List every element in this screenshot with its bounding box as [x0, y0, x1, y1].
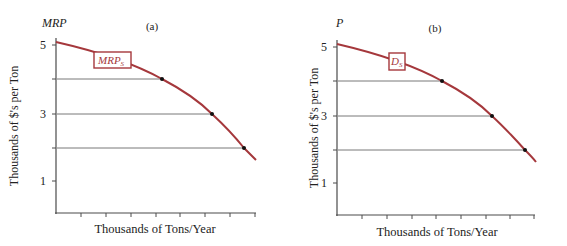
svg-text:MRPS: MRPS: [97, 54, 125, 68]
panel-a-point: [210, 112, 214, 116]
panel-a-ytick-label-3: 3: [40, 107, 46, 121]
panel-b-point: [523, 148, 527, 152]
panel-a-y-axis-title: MRP: [41, 16, 67, 30]
panel-a-ytick-label-1: 1: [40, 174, 46, 188]
panel-b-curve-label: DS: [389, 53, 405, 70]
panel-b-point: [440, 79, 444, 83]
panel-b-label: (b): [429, 22, 442, 35]
panel-b-ylabel: Thousands of $'s per Ton: [307, 68, 321, 188]
panel-b-ytick-label-1: 1: [321, 176, 327, 190]
panel-a-point: [160, 77, 164, 81]
panel-a-label: (a): [146, 20, 159, 33]
panel-a-curve-label: MRPS: [94, 52, 131, 68]
panel-a-xlabel: Thousands of Tons/Year: [94, 222, 216, 236]
panel-a-mrp-curve: [56, 42, 256, 160]
panel-b-point: [490, 114, 494, 118]
panel-a-ytick-label-5: 5: [40, 38, 46, 52]
panel-b-xticks: [362, 215, 534, 219]
panel-b-ytick-label-5: 5: [321, 40, 327, 54]
panel-a-point: [242, 146, 246, 150]
panel-b-xlabel: Thousands of Tons/Year: [376, 225, 498, 239]
panel-b: P (b) Thousands of $'s per Ton 5 3 1 Tho…: [307, 16, 536, 239]
panel-a-xticks: [81, 213, 255, 217]
panel-b-ytick-label-3: 3: [321, 109, 327, 123]
panel-a: MRP (a) Thousands of $'s per Ton 5 3 1: [7, 16, 256, 236]
panel-a-ylabel: Thousands of $'s per Ton: [7, 66, 21, 186]
panel-b-y-axis-title: P: [335, 16, 344, 30]
panel-b-demand-curve: [337, 44, 536, 162]
figure: MRP (a) Thousands of $'s per Ton 5 3 1: [0, 0, 567, 246]
